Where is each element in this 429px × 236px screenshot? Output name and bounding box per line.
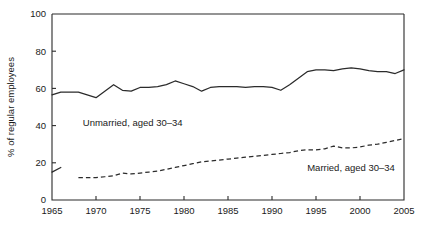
- y-tick-label-60: 60: [35, 83, 46, 94]
- annotation-married: Married, aged 30–34: [307, 162, 395, 173]
- y-tick-label-100: 100: [30, 8, 46, 19]
- x-tick-label-1980: 1980: [173, 205, 194, 216]
- series-annotations: Unmarried, aged 30–34Married, aged 30–34: [83, 117, 395, 174]
- x-tick-label-1995: 1995: [305, 205, 326, 216]
- y-tick-label-40: 40: [35, 120, 46, 131]
- x-tick-label-1965: 1965: [41, 205, 62, 216]
- y-axis-title-group: % of regular employees: [5, 57, 16, 157]
- series-line-2: [52, 167, 61, 172]
- x-tick-label-1970: 1970: [85, 205, 106, 216]
- chart-figure: % of regular employees 020406080100 1965…: [0, 0, 429, 236]
- y-tick-label-20: 20: [35, 157, 46, 168]
- y-tick-label-80: 80: [35, 46, 46, 57]
- x-tick-label-1975: 1975: [129, 205, 150, 216]
- y-axis-tick-labels: 020406080100: [30, 8, 46, 205]
- x-tick-label-1985: 1985: [217, 205, 238, 216]
- line-chart: % of regular employees 020406080100 1965…: [0, 0, 429, 236]
- x-tick-label-2000: 2000: [349, 205, 370, 216]
- x-tick-label-2005: 2005: [393, 205, 414, 216]
- y-axis-title: % of regular employees: [5, 57, 16, 157]
- annotation-unmarried: Unmarried, aged 30–34: [83, 117, 183, 128]
- series-line-0: [52, 68, 404, 98]
- y-tick-label-0: 0: [41, 194, 46, 205]
- x-tick-label-1990: 1990: [261, 205, 282, 216]
- x-axis-tick-labels: 196519701975198019851990199520002005: [41, 205, 414, 216]
